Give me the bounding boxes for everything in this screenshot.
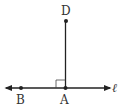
point-d bbox=[64, 19, 68, 23]
label-line-l: ℓ bbox=[112, 81, 117, 95]
point-a bbox=[64, 86, 68, 90]
geometry-diagram: D A B ℓ bbox=[0, 0, 119, 107]
label-b: B bbox=[16, 93, 25, 107]
label-a: A bbox=[59, 93, 69, 107]
diagram-canvas: D A B ℓ bbox=[0, 0, 119, 107]
point-b bbox=[19, 86, 23, 90]
label-d: D bbox=[61, 4, 71, 18]
